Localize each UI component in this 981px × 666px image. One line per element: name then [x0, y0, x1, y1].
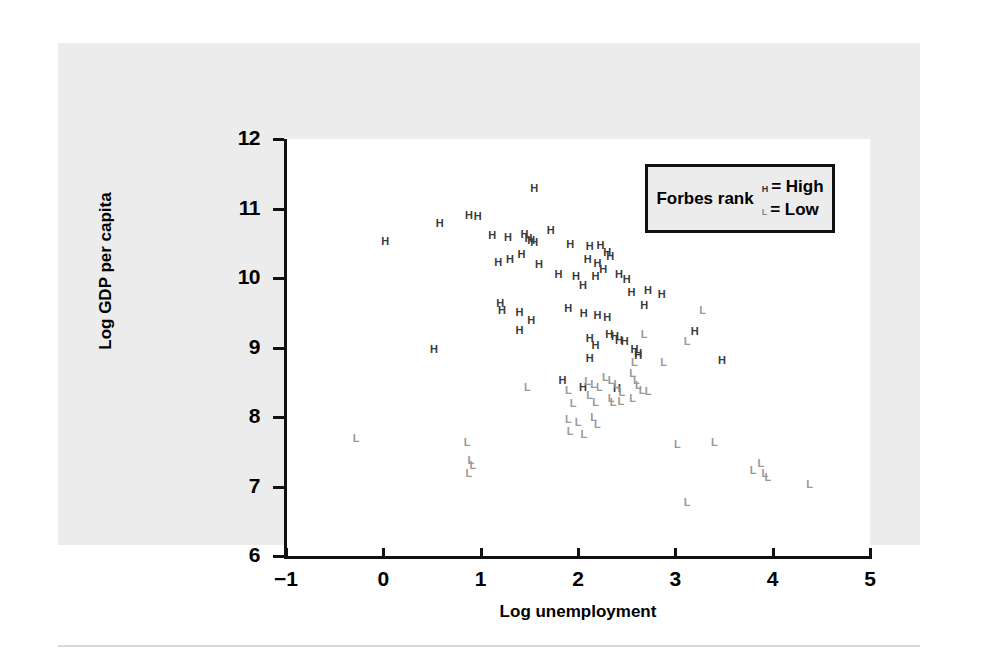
data-point-high: H — [591, 340, 601, 351]
data-point-low: L — [579, 429, 589, 440]
data-point-high: H — [585, 353, 595, 364]
data-point-low: L — [568, 398, 578, 409]
data-point-high: H — [497, 305, 507, 316]
data-point-high: H — [529, 183, 539, 194]
data-point-low: L — [698, 305, 708, 316]
data-point-low: L — [594, 382, 604, 393]
y-axis-line — [284, 139, 287, 559]
data-point-low: L — [563, 414, 573, 425]
data-point-high: H — [622, 274, 632, 285]
data-point-high: H — [605, 251, 615, 262]
data-point-high: H — [585, 241, 595, 252]
legend-marker-l: L — [762, 207, 768, 217]
legend-entries: H= HighL= Low — [762, 177, 824, 220]
data-point-high: H — [602, 312, 612, 323]
data-point-low: L — [709, 437, 719, 448]
data-point-high: H — [429, 344, 439, 355]
y-tick-label-7: 7 — [220, 474, 260, 498]
data-point-low: L — [643, 386, 653, 397]
data-point-high: H — [579, 308, 589, 319]
y-tick-label-11: 11 — [220, 196, 260, 220]
x-tick-3 — [674, 548, 677, 559]
y-tick-label-6: 6 — [220, 543, 260, 567]
x-tick-1 — [480, 548, 483, 559]
y-tick-label-12: 12 — [220, 126, 260, 150]
data-point-high: H — [578, 280, 588, 291]
y-tick-7 — [273, 486, 284, 489]
data-point-low: L — [565, 426, 575, 437]
data-point-high: H — [565, 239, 575, 250]
data-point-high: H — [493, 257, 503, 268]
data-point-low: L — [563, 385, 573, 396]
x-tick-label-2: 2 — [556, 567, 600, 591]
data-point-high: H — [639, 300, 649, 311]
data-point-high: H — [717, 355, 727, 366]
data-point-low: L — [351, 433, 361, 444]
data-point-high: H — [435, 218, 445, 229]
data-point-high: H — [554, 269, 564, 280]
legend-entry-l: L= Low — [762, 200, 824, 220]
data-point-high: H — [526, 315, 536, 326]
x-tick-label-0: 0 — [361, 567, 405, 591]
legend-title: Forbes rank — [656, 189, 753, 209]
figure-card: 6789101112 −1012345 Log GDP per capita L… — [58, 43, 920, 545]
data-point-high: H — [517, 249, 527, 260]
data-point-high: H — [657, 289, 667, 300]
data-point-low: L — [682, 336, 692, 347]
y-tick-label-8: 8 — [220, 404, 260, 428]
x-tick-label-5: 5 — [848, 567, 892, 591]
x-tick-5 — [869, 548, 872, 559]
x-tick-label-3: 3 — [653, 567, 697, 591]
legend-label-h: = High — [771, 177, 823, 197]
y-tick-6 — [273, 555, 284, 558]
data-point-high: H — [627, 287, 637, 298]
data-point-high: H — [592, 310, 602, 321]
data-point-high: H — [505, 254, 515, 265]
legend-entry-h: H= High — [762, 177, 824, 197]
data-point-low: L — [464, 468, 474, 479]
legend-label-l: = Low — [770, 200, 819, 220]
data-point-high: H — [534, 259, 544, 270]
data-point-high: H — [515, 325, 525, 336]
data-point-high: H — [473, 211, 483, 222]
data-point-low: L — [682, 497, 692, 508]
footer-rule — [58, 645, 920, 647]
data-point-high: H — [487, 230, 497, 241]
y-tick-11 — [273, 208, 284, 211]
data-point-low: L — [462, 437, 472, 448]
data-point-high: H — [643, 285, 653, 296]
data-point-high: H — [620, 336, 630, 347]
y-tick-9 — [273, 347, 284, 350]
data-point-low: L — [672, 439, 682, 450]
x-tick--1 — [285, 548, 288, 559]
data-point-low: L — [628, 393, 638, 404]
x-tick-4 — [772, 548, 775, 559]
data-point-high: H — [546, 225, 556, 236]
legend: Forbes rank H= HighL= Low — [645, 164, 835, 233]
x-tick-2 — [577, 548, 580, 559]
data-point-low: L — [805, 479, 815, 490]
data-point-low: L — [522, 382, 532, 393]
data-point-high: H — [563, 303, 573, 314]
y-tick-12 — [273, 138, 284, 141]
x-axis-title: Log unemployment — [286, 602, 870, 622]
data-point-low: L — [763, 472, 773, 483]
y-tick-label-9: 9 — [220, 335, 260, 359]
x-tick-label-1: 1 — [459, 567, 503, 591]
data-point-high: H — [380, 236, 390, 247]
data-point-high: H — [583, 254, 593, 265]
legend-marker-h: H — [762, 184, 769, 194]
data-point-high: H — [515, 307, 525, 318]
data-point-low: L — [591, 397, 601, 408]
x-tick-0 — [382, 548, 385, 559]
data-point-low: L — [639, 329, 649, 340]
y-tick-label-10: 10 — [220, 265, 260, 289]
y-tick-8 — [273, 416, 284, 419]
data-point-low: L — [608, 397, 618, 408]
x-tick-label--1: −1 — [264, 567, 308, 591]
data-point-high: H — [591, 271, 601, 282]
y-axis-title: Log GDP per capita — [96, 141, 116, 401]
data-point-high: H — [503, 232, 513, 243]
data-point-high: H — [529, 237, 539, 248]
x-tick-label-4: 4 — [751, 567, 795, 591]
